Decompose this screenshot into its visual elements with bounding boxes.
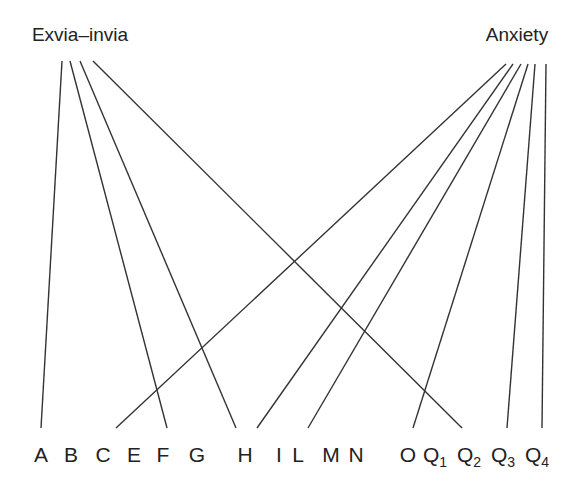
bottom-factor-labels: ABCEFGHILMNOQ1Q2Q3Q4 bbox=[34, 443, 549, 470]
bottom-label-A: A bbox=[34, 443, 48, 466]
top-label-anxiety: Anxiety bbox=[486, 24, 549, 45]
factor-link-diagram: Exvia–inviaAnxiety ABCEFGHILMNOQ1Q2Q3Q4 bbox=[0, 0, 583, 488]
link-anxiety-L bbox=[308, 64, 521, 428]
link-exvia-H bbox=[80, 61, 236, 428]
link-exvia-F bbox=[70, 61, 167, 428]
link-exvia-Q2 bbox=[93, 61, 462, 428]
bottom-label-Q2: Q2 bbox=[457, 443, 481, 470]
top-label-exvia: Exvia–invia bbox=[32, 24, 129, 45]
bottom-label-I: I bbox=[276, 443, 282, 466]
link-anxiety-C bbox=[116, 64, 506, 428]
bottom-label-M: M bbox=[322, 443, 340, 466]
bottom-label-G: G bbox=[189, 443, 205, 466]
link-anxiety-H bbox=[257, 64, 513, 428]
bottom-label-F: F bbox=[157, 443, 170, 466]
top-factor-labels: Exvia–inviaAnxiety bbox=[32, 24, 549, 45]
bottom-label-E: E bbox=[127, 443, 141, 466]
bottom-label-B: B bbox=[64, 443, 78, 466]
link-anxiety-Q4 bbox=[542, 64, 546, 428]
bottom-label-O: O bbox=[400, 443, 416, 466]
bottom-label-L: L bbox=[292, 443, 304, 466]
bottom-label-Q3: Q3 bbox=[491, 443, 515, 470]
link-lines bbox=[41, 61, 546, 428]
bottom-label-Q1: Q1 bbox=[423, 443, 447, 470]
bottom-label-C: C bbox=[95, 443, 110, 466]
bottom-label-N: N bbox=[348, 443, 363, 466]
link-exvia-A bbox=[41, 61, 62, 428]
bottom-label-Q4: Q4 bbox=[525, 443, 549, 470]
bottom-label-H: H bbox=[237, 443, 252, 466]
